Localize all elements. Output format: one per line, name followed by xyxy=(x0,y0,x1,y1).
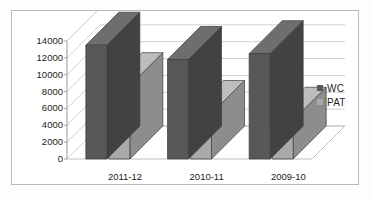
legend-item-wc[interactable]: WC xyxy=(317,81,365,95)
x-category-label: 2009-10 xyxy=(256,171,320,182)
y-axis-tick-labels: 14000120001000080006000400020000 xyxy=(15,11,63,186)
chart-legend: WCPAT xyxy=(317,81,365,109)
legend-label: WC xyxy=(327,83,344,94)
y-tick-label: 8000 xyxy=(17,87,63,97)
y-tick-label: 6000 xyxy=(17,103,63,113)
bar-front-face xyxy=(249,54,270,159)
bar-front-face xyxy=(86,45,107,159)
legend-label: PAT xyxy=(327,97,346,108)
x-category-label: 2011-12 xyxy=(93,171,157,182)
y-tick-label: 12000 xyxy=(17,53,63,63)
legend-swatch-icon xyxy=(317,99,323,105)
y-tick-label: 2000 xyxy=(17,137,63,147)
legend-item-pat[interactable]: PAT xyxy=(317,95,365,109)
y-tick-label: 14000 xyxy=(17,36,63,46)
y-tick-label: 4000 xyxy=(17,120,63,130)
bar-front-face xyxy=(168,60,189,159)
plot-area xyxy=(12,11,360,186)
x-category-label: 2010-11 xyxy=(175,171,239,182)
legend-swatch-icon xyxy=(317,85,323,91)
y-tick-label: 0 xyxy=(17,154,63,164)
plot-svg xyxy=(12,11,360,186)
y-tick-label: 10000 xyxy=(17,70,63,80)
chart-3d-column: 14000120001000080006000400020000 2011-12… xyxy=(0,0,372,200)
chart-frame: 14000120001000080006000400020000 2011-12… xyxy=(11,10,359,185)
